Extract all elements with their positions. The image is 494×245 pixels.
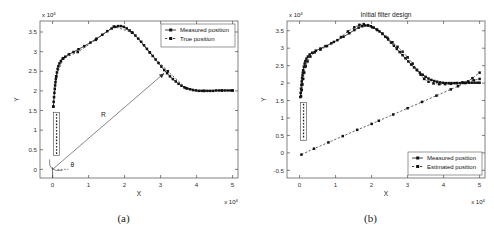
data-point-marker	[436, 80, 439, 83]
data-point-marker	[174, 80, 177, 83]
plot-a-svg: 01234500.511.522.533.5XYx 104x 104RθMeas…	[0, 0, 247, 215]
y-axis-label: Y	[13, 97, 20, 102]
y-tick-label: 2.5	[28, 67, 37, 74]
data-point-marker	[444, 83, 447, 86]
data-point-marker	[172, 78, 175, 81]
data-point-marker	[358, 24, 361, 27]
data-point-marker	[450, 88, 453, 91]
y-tick-label: 3	[281, 44, 285, 51]
data-point-marker	[392, 113, 395, 116]
panel-a-caption: (a)	[0, 212, 247, 224]
data-point-marker	[471, 77, 474, 80]
y-tick-label: 0	[281, 149, 285, 156]
y-tick-label: 1	[281, 114, 285, 121]
data-point-marker	[401, 50, 404, 53]
data-point-marker	[95, 39, 98, 42]
data-point-marker	[304, 65, 307, 68]
data-point-marker	[464, 82, 467, 85]
data-point-marker	[231, 89, 234, 92]
data-point-marker	[62, 57, 65, 60]
legend-sample-marker	[169, 29, 172, 32]
x-tick-label: 4	[195, 181, 199, 188]
legend[interactable]: Measured positionEstimated position	[408, 152, 482, 175]
data-point-marker	[391, 41, 394, 44]
data-point-marker	[340, 36, 343, 39]
y-tick-label: -0.5	[273, 167, 284, 174]
data-point-marker	[126, 27, 129, 30]
data-point-marker	[306, 60, 309, 63]
data-point-marker	[52, 105, 55, 108]
data-point-marker	[185, 87, 188, 90]
y-tick-label: 0.5	[28, 146, 37, 153]
data-point-marker	[367, 24, 370, 27]
x-axis-label: X	[137, 190, 142, 197]
data-point-marker	[313, 147, 316, 150]
x-axis-exponent: x 104	[471, 198, 485, 205]
x-axis-exponent: x 104	[224, 198, 238, 205]
data-point-marker	[427, 77, 430, 80]
data-point-marker	[430, 79, 433, 82]
y-tick-label: 3	[34, 48, 38, 55]
data-point-marker	[396, 46, 399, 49]
legend-sample-marker	[416, 157, 419, 160]
data-point-marker	[149, 51, 152, 54]
x-tick-label: 2	[370, 181, 374, 188]
data-point-marker	[203, 90, 206, 93]
plot-b-svg: 012345-0.500.511.522.533.5XYx 104x 104In…	[247, 0, 494, 215]
data-point-marker	[302, 78, 305, 81]
y-tick-label: 1.5	[28, 107, 37, 114]
legend-label: Estimated position	[427, 164, 476, 170]
data-point-marker	[167, 70, 170, 73]
x-tick-label: 0	[298, 181, 302, 188]
panel-b-caption: (b)	[247, 212, 494, 224]
data-point-marker	[77, 48, 80, 51]
x-tick-label: 1	[87, 181, 91, 188]
data-point-marker	[370, 123, 373, 126]
range-label: R	[101, 111, 106, 118]
data-point-marker	[77, 51, 80, 54]
data-point-marker	[353, 26, 356, 29]
y-tick-label: 0	[34, 166, 38, 173]
legend-label: Measured position	[427, 155, 476, 161]
data-point-marker	[419, 73, 422, 76]
data-point-marker	[303, 62, 306, 65]
x-tick-label: 5	[478, 181, 482, 188]
x-tick-label: 4	[442, 181, 446, 188]
data-point-marker	[478, 71, 481, 74]
data-point-marker	[131, 31, 134, 34]
legend-label: Measured position	[180, 27, 229, 33]
data-point-marker	[123, 26, 126, 29]
data-point-marker	[386, 36, 389, 39]
data-point-marker	[300, 153, 303, 156]
y-tick-label: 1.5	[275, 97, 284, 104]
data-point-marker	[459, 82, 462, 85]
y-tick-label: 0.5	[275, 132, 284, 139]
x-tick-label: 3	[406, 181, 410, 188]
legend-sample-marker	[169, 37, 172, 40]
data-point-marker	[56, 71, 59, 74]
y-axis-exponent: x 104	[42, 11, 56, 18]
data-point-marker	[313, 51, 316, 54]
data-point-marker	[398, 51, 401, 54]
data-point-marker	[117, 25, 120, 28]
data-point-marker	[378, 120, 381, 123]
data-point-marker	[301, 80, 304, 83]
data-point-marker	[473, 82, 476, 85]
data-point-marker	[326, 45, 329, 48]
y-exponent-sup: 4	[53, 11, 56, 16]
data-point-marker	[362, 23, 365, 26]
y-axis-label: Y	[260, 97, 267, 102]
panel-a: 01234500.511.522.533.5XYx 104x 104RθMeas…	[0, 0, 247, 245]
data-point-marker	[333, 41, 336, 44]
data-point-marker	[113, 25, 116, 28]
figure-container: 01234500.511.522.533.5XYx 104x 104RθMeas…	[0, 0, 494, 245]
legend[interactable]: Measured positionTrue position	[161, 24, 235, 47]
plot-b: 012345-0.500.511.522.533.5XYx 104x 104In…	[247, 0, 494, 215]
data-point-marker	[342, 135, 345, 138]
data-point-marker	[303, 71, 306, 74]
data-point-marker	[229, 89, 232, 92]
data-point-marker	[371, 26, 374, 29]
data-point-marker	[301, 89, 304, 92]
data-point-marker	[438, 83, 441, 86]
data-point-marker	[353, 29, 356, 32]
